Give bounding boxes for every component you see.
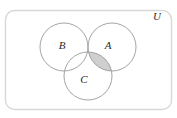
venn-diagram-canvas: B A C U — [0, 0, 177, 118]
universal-set-boundary — [6, 11, 172, 110]
label-set-b: B — [59, 39, 66, 51]
label-set-c: C — [80, 73, 88, 85]
label-universal-set: U — [153, 10, 162, 22]
venn-diagram-figure: B A C U — [0, 0, 177, 118]
label-set-a: A — [104, 39, 112, 51]
